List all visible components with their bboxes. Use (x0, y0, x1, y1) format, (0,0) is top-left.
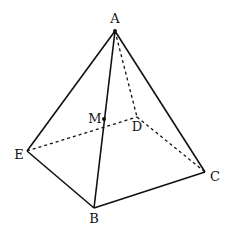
hidden-edge-ad (115, 31, 137, 117)
hidden-edge-dc (137, 117, 205, 172)
label-c: C (210, 169, 220, 184)
label-d: D (132, 119, 142, 134)
edge-ac (115, 31, 205, 172)
diagram-canvas: ABCDEM (0, 0, 233, 238)
label-m: M (88, 111, 101, 126)
label-a: A (109, 11, 120, 26)
point-m (102, 117, 106, 121)
label-b: B (89, 211, 99, 226)
pyramid-figure: ABCDEM (0, 0, 233, 238)
edge-ae (27, 31, 115, 151)
edge-bc (94, 172, 205, 208)
hidden-edge-ed (27, 117, 137, 151)
edge-eb (27, 151, 94, 208)
label-e: E (14, 147, 24, 162)
point-a (113, 29, 117, 33)
